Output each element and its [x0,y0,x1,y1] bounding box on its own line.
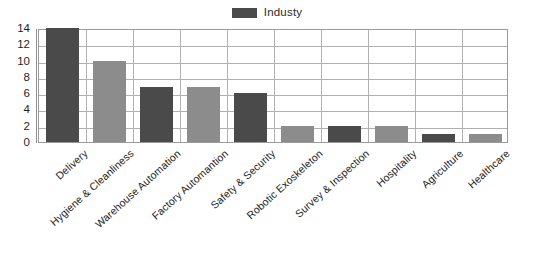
x-tick-slot-3: Factory Automantion [179,147,222,148]
y-tick-label-0: 0 [24,137,30,149]
bar-5[interactable] [281,126,315,142]
x-tick-label-0: Delivery [52,147,89,182]
x-tick-slot-7: Hospitality [367,147,410,148]
y-tick-label-12: 12 [17,40,30,52]
x-tick-slot-4: Safety & Security [226,147,269,148]
bar-0[interactable] [46,28,80,142]
bar-6[interactable] [328,126,362,142]
chart-legend: Industy [0,5,534,21]
x-tick-slot-6: Survey & Inspection [320,147,363,148]
x-tick-slot-0: Delivery [38,147,81,148]
bar-series-industy [39,30,507,142]
x-axis-labels: DeliveryHygiene & CleanlinessWarehouse A… [38,143,508,253]
bar-2[interactable] [140,87,174,142]
y-tick-label-10: 10 [17,56,30,68]
bar-chart: Industy 14121086420 DeliveryHygiene & Cl… [0,0,534,259]
x-tick-slot-1: Hygiene & Cleanliness [85,147,128,148]
x-tick-label-2: Warehouse Automation [93,147,183,230]
legend-label: Industy [264,7,302,19]
bar-8[interactable] [422,134,456,142]
legend-entry-industy[interactable]: Industy [232,7,302,19]
x-tick-label-9: Healthcare [466,147,513,191]
x-tick-slot-2: Warehouse Automation [132,147,175,148]
x-tick-label-8: Agriculture [419,147,465,190]
x-tick-label-7: Hospitality [373,147,418,189]
bar-9[interactable] [469,134,503,142]
x-tick-label-1: Hygiene & Cleanliness [48,147,136,228]
bar-3[interactable] [187,87,221,142]
y-axis: 14121086420 [0,29,34,143]
plot-area [38,29,508,143]
y-tick-label-4: 4 [24,105,30,117]
x-tick-slot-9: Healthcare [461,147,504,148]
y-tick-label-8: 8 [24,72,30,84]
y-axis-spine [36,29,37,143]
y-tick-label-6: 6 [24,88,30,100]
x-tick-slot-8: Agriculture [414,147,457,148]
legend-swatch-icon [232,8,257,18]
bar-1[interactable] [93,61,127,142]
x-tick-slot-5: Robotic Exoskeleton [273,147,316,148]
y-tick-label-2: 2 [24,121,30,133]
bar-7[interactable] [375,126,409,142]
y-tick-label-14: 14 [17,23,30,35]
bar-4[interactable] [234,93,268,142]
